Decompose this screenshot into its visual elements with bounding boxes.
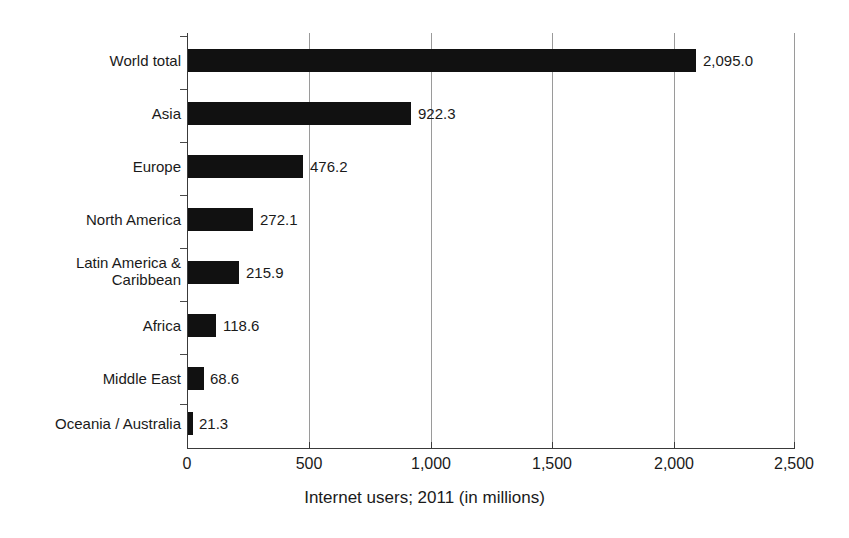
x-axis-tick-label: 2,000 [654,455,694,473]
x-axis-tick-label: 2,500 [774,455,814,473]
y-axis-tick [180,248,187,249]
bar-asia [187,102,411,125]
y-axis-tick [180,89,187,90]
category-label-asia: Asia [0,105,181,122]
bar-value-world-total: 2,095.0 [703,53,753,68]
category-label-line: Latin America & [0,254,181,271]
x-axis-title: Internet users; 2011 (in millions) [0,488,849,508]
category-label-oceania: Oceania / Australia [0,415,181,432]
plot-area [187,33,794,448]
bar-north-america [187,208,253,231]
x-axis-tick [674,442,675,449]
bar-value-europe: 476.2 [310,159,348,174]
y-axis-tick [180,301,187,302]
x-axis-tick-label: 1,500 [532,455,572,473]
bar-value-latin-america: 215.9 [246,265,284,280]
bar-world-total [187,49,696,72]
category-label-line: Caribbean [0,271,181,288]
bar-africa [187,314,216,337]
bar-value-north-america: 272.1 [260,212,298,227]
x-axis-tick-label: 0 [183,455,192,473]
x-axis-tick [309,442,310,449]
y-axis-tick [180,404,187,405]
gridline-500 [309,33,310,448]
x-axis-line [187,448,795,449]
y-axis-tick [180,36,187,37]
bar-value-oceania: 21.3 [199,416,228,431]
category-label-latin-america: Latin America & Caribbean [0,254,181,288]
bar-value-africa: 118.6 [223,318,259,333]
gridline-1000 [431,33,432,448]
category-label-middle-east: Middle East [0,370,181,387]
bar-value-asia: 922.3 [418,106,456,121]
x-axis-tick [431,442,432,449]
category-label-europe: Europe [0,158,181,175]
y-axis-tick [180,142,187,143]
x-axis-tick-label: 1,000 [411,455,451,473]
gridline-1500 [552,33,553,448]
gridline-2000 [674,33,675,448]
category-label-north-america: North America [0,211,181,228]
bar-europe [187,155,303,178]
x-axis-tick [187,442,188,449]
x-axis-tick-label: 500 [296,455,323,473]
category-label-africa: Africa [0,317,181,334]
gridline-2500 [794,33,795,448]
category-label-world-total: World total [0,52,181,69]
bar-chart: World total Asia Europe North America La… [0,0,849,538]
y-axis-tick [180,195,187,196]
y-axis-tick [180,354,187,355]
bar-middle-east [187,367,204,390]
bar-value-middle-east: 68.6 [210,371,239,386]
bar-latin-america [187,261,239,284]
x-axis-tick [794,442,795,449]
y-axis-line [187,33,188,448]
x-axis-tick [552,442,553,449]
